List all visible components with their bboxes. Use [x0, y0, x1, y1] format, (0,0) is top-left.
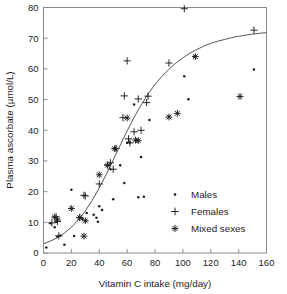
data-point-male	[98, 205, 101, 208]
data-point-mixed	[111, 145, 118, 152]
data-point-male	[70, 189, 73, 192]
data-point-mixed	[82, 217, 89, 224]
data-point-male	[137, 196, 140, 199]
y-tick-label: 60	[28, 63, 39, 74]
data-point-male	[133, 103, 136, 106]
x-tick-label: 120	[203, 257, 219, 268]
data-point-male	[112, 198, 115, 201]
y-axis-title: Plasma ascorbate (µmol/L)	[4, 71, 15, 188]
y-tick-label: 80	[28, 2, 39, 13]
x-tick-label: 100	[175, 257, 191, 268]
data-point-male	[148, 119, 151, 122]
data-point-mixed	[237, 93, 244, 100]
data-point-mixed	[76, 214, 83, 221]
x-tick-label: 160	[259, 257, 275, 268]
data-point-mixed	[192, 53, 199, 60]
data-point-mixed	[174, 110, 181, 117]
data-point-male	[92, 213, 95, 216]
legend-dot-icon	[174, 193, 177, 196]
data-point-male	[187, 98, 190, 101]
legend-label-females: Females	[191, 206, 229, 217]
data-point-male	[123, 182, 126, 185]
y-tick-label: 40	[28, 125, 39, 136]
data-point-male	[140, 156, 143, 159]
data-point-male	[63, 243, 66, 246]
x-tick-label: 20	[66, 257, 77, 268]
y-tick-label: 30	[28, 155, 39, 166]
x-tick-label: 80	[150, 257, 161, 268]
data-point-male	[97, 220, 100, 223]
x-axis-title: Vitamin C intake (mg/day)	[99, 278, 212, 289]
data-point-male	[119, 164, 122, 167]
scatter-plot-figure: 020406080100120140160 01020304050607080 …	[0, 0, 287, 294]
x-tick-label: 60	[122, 257, 133, 268]
data-point-mixed	[135, 137, 142, 144]
x-tick-label: 0	[41, 257, 46, 268]
data-point-male	[95, 216, 98, 219]
data-point-male	[253, 68, 256, 71]
data-point-male	[101, 209, 104, 212]
data-point-male	[85, 212, 88, 215]
data-point-mixed	[81, 233, 88, 240]
data-point-male	[45, 246, 48, 249]
data-point-mixed	[104, 162, 111, 169]
data-point-mixed	[54, 216, 61, 223]
plot-canvas: 020406080100120140160 01020304050607080 …	[0, 0, 287, 294]
y-tick-label: 10	[28, 217, 39, 228]
legend-label-mixed-sexes: Mixed sexes	[191, 223, 246, 234]
legend-label-males: Males	[191, 189, 217, 200]
data-point-male	[53, 226, 56, 229]
data-point-mixed	[96, 171, 103, 178]
y-tick-label: 0	[33, 247, 38, 258]
y-tick-label: 20	[28, 186, 39, 197]
x-tick-label: 40	[94, 257, 105, 268]
legend-asterisk-icon	[171, 225, 178, 232]
y-tick-label: 50	[28, 94, 39, 105]
y-tick-label: 70	[28, 33, 39, 44]
data-point-mixed	[68, 205, 75, 212]
data-point-male	[73, 235, 76, 238]
x-tick-label: 140	[231, 257, 247, 268]
data-point-mixed	[166, 114, 173, 121]
data-point-male	[143, 196, 146, 199]
data-point-male	[183, 75, 186, 78]
data-point-mixed	[124, 115, 131, 122]
